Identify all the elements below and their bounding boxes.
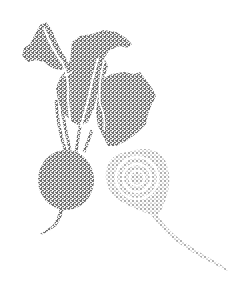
beet-leaves	[22, 22, 156, 152]
right-leaf	[96, 72, 156, 146]
whole-beet	[38, 150, 94, 235]
whole-beet-root	[40, 206, 64, 235]
illustration-canvas: Stippled illustration of beets	[0, 0, 243, 303]
halved-beet	[106, 149, 228, 271]
halved-beet-outline	[106, 149, 170, 217]
whole-beet-bulb	[38, 150, 94, 210]
halved-beet-root	[152, 212, 228, 271]
beet-illustration	[0, 0, 243, 303]
